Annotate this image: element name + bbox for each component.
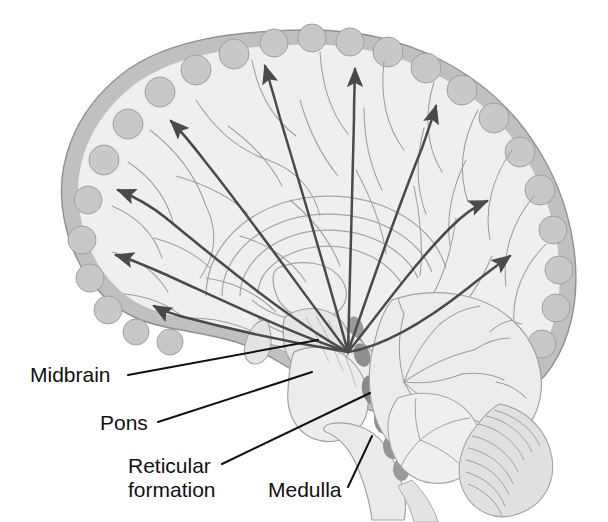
label-midbrain: Midbrain: [30, 363, 111, 386]
label-reticular-formation-line2: formation: [128, 478, 216, 501]
brain-sagittal-diagram: Midbrain Pons Reticular formation Medull…: [0, 0, 608, 522]
label-reticular-formation-line1: Reticular: [128, 454, 211, 477]
figure-canvas: Midbrain Pons Reticular formation Medull…: [0, 0, 608, 522]
label-medulla: Medulla: [268, 478, 342, 501]
label-pons: Pons: [100, 411, 148, 434]
